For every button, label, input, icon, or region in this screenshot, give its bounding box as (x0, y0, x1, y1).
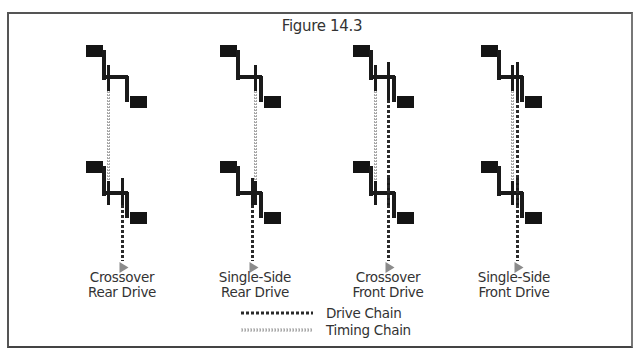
crossover-front-bottom-crank-chainring-1 (374, 181, 377, 205)
crossover-front-top-crank-left-pedal (353, 45, 370, 57)
single-side-front-top-crank-chainring-1 (511, 65, 514, 91)
legend-drive-chain-label: Drive Chain (326, 305, 402, 321)
single-side-rear-top-crank-right-crank-arm (259, 76, 263, 102)
caption-line-2: Rear Drive (195, 285, 315, 300)
crossover-rear-bottom-crank-spindle (102, 191, 128, 195)
crossover-front-top-crank-right-pedal (397, 96, 414, 108)
crossover-rear-bottom-crank-chainring-1 (107, 181, 110, 205)
single-side-front-bottom-crank-spindle (497, 191, 523, 195)
caption-crossover-front: Crossover Front Drive (328, 270, 448, 300)
crossover-front-bottom-crank-left-pedal (353, 161, 370, 173)
crossover-front-top-crank-right-crank-arm (392, 76, 396, 102)
crossover-front-top-crank-spindle (369, 75, 395, 79)
crossover-rear-top-crank-right-pedal (130, 96, 147, 108)
single-side-rear-bottom-crank-left-pedal (220, 161, 237, 173)
crossover-rear-top-crank-left-pedal (86, 45, 103, 57)
single-side-rear-top-crank-chainring-1 (254, 65, 257, 91)
single-side-front-bottom-crank-chainring-1 (511, 181, 514, 205)
crossover-front-bottom-crank-right-pedal (397, 212, 414, 224)
single-side-rear-bottom-crank-chainring-2 (251, 178, 254, 205)
single-side-front-top-crank-right-crank-arm (520, 76, 524, 102)
single-side-rear-top-crank-spindle (236, 75, 262, 79)
crossover-front-top-crank-chainring-2 (387, 62, 390, 100)
crossover-front-bottom-crank-spindle (369, 191, 395, 195)
single-side-front-top-crank-spindle (497, 75, 523, 79)
crossover-front-bottom-crank-right-crank-arm (392, 192, 396, 218)
caption-line-1: Crossover (328, 270, 448, 285)
crossover-rear-top-crank-right-crank-arm (125, 76, 129, 102)
single-side-front-top-crank-chainring-2 (516, 62, 519, 100)
crossover-rear-bottom-crank-left-pedal (86, 161, 103, 173)
single-side-front-top-crank-right-pedal (525, 96, 542, 108)
single-side-rear-bottom-crank-chainring-1 (254, 181, 257, 205)
single-side-rear-bottom-crank-right-crank-arm (259, 192, 263, 218)
caption-line-2: Front Drive (328, 285, 448, 300)
caption-line-2: Front Drive (454, 285, 574, 300)
single-side-rear-bottom-crank-spindle (236, 191, 262, 195)
crossover-rear-top-crank-spindle (102, 75, 128, 79)
caption-line-1: Single-Side (454, 270, 574, 285)
caption-crossover-rear: Crossover Rear Drive (62, 270, 182, 300)
caption-line-2: Rear Drive (62, 285, 182, 300)
single-side-rear-top-crank-right-pedal (264, 96, 281, 108)
tandem-crank-diagram (0, 0, 644, 361)
legend-timing-chain-label: Timing Chain (326, 322, 411, 338)
single-side-rear-top-crank-left-pedal (220, 45, 237, 57)
single-side-rear-bottom-crank-right-pedal (264, 212, 281, 224)
crossover-rear-bottom-crank-right-pedal (130, 212, 147, 224)
single-side-front-bottom-crank-right-pedal (525, 212, 542, 224)
single-side-front-top-crank-left-pedal (481, 45, 498, 57)
crossover-front-top-crank-chainring-1 (374, 65, 377, 91)
crossover-rear-bottom-crank-chainring-2 (121, 178, 124, 205)
caption-single-side-front: Single-Side Front Drive (454, 270, 574, 300)
caption-line-1: Crossover (62, 270, 182, 285)
single-side-front-bottom-crank-right-crank-arm (520, 192, 524, 218)
caption-line-1: Single-Side (195, 270, 315, 285)
crossover-rear-top-crank-chainring-1 (107, 65, 110, 91)
single-side-front-bottom-crank-left-pedal (481, 161, 498, 173)
caption-single-side-rear: Single-Side Rear Drive (195, 270, 315, 300)
crossover-rear-bottom-crank-right-crank-arm (125, 192, 129, 218)
